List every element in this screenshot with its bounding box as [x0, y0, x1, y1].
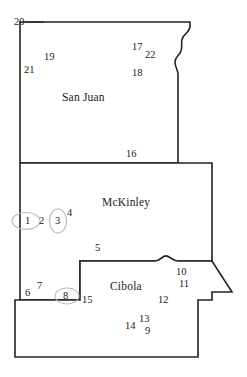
site-number-21[interactable]: 21 — [24, 65, 35, 76]
site-number-20[interactable]: 20 — [14, 17, 25, 28]
site-number-8[interactable]: 8 — [63, 291, 68, 302]
site-number-5[interactable]: 5 — [95, 243, 100, 254]
county-label-mckinley: McKinley — [102, 197, 150, 209]
site-number-16[interactable]: 16 — [126, 149, 137, 160]
site-number-7[interactable]: 7 — [37, 281, 42, 292]
county-label-san-juan: San Juan — [62, 92, 105, 104]
site-number-9[interactable]: 9 — [145, 326, 150, 337]
site-number-4[interactable]: 4 — [67, 208, 72, 219]
site-number-13[interactable]: 13 — [139, 314, 150, 325]
site-number-15[interactable]: 15 — [82, 295, 93, 306]
site-number-14[interactable]: 14 — [125, 321, 136, 332]
county-label-cibola: Cibola — [110, 281, 142, 293]
site-number-10[interactable]: 10 — [176, 267, 187, 278]
site-number-19[interactable]: 19 — [44, 52, 55, 63]
map-vector-layer — [0, 0, 247, 377]
site-number-17[interactable]: 17 — [132, 42, 143, 53]
site-number-3[interactable]: 3 — [55, 216, 60, 227]
site-number-6[interactable]: 6 — [25, 288, 30, 299]
site-number-22[interactable]: 22 — [145, 50, 156, 61]
site-number-18[interactable]: 18 — [132, 68, 143, 79]
site-number-11[interactable]: 11 — [179, 279, 189, 290]
site-number-1[interactable]: 1 — [25, 216, 30, 227]
county-shape-san-juan[interactable] — [20, 22, 190, 163]
site-number-2[interactable]: 2 — [39, 216, 44, 227]
county-map: San Juan McKinley Cibola 20 19 21 17 22 … — [0, 0, 247, 377]
site-number-12[interactable]: 12 — [158, 295, 169, 306]
